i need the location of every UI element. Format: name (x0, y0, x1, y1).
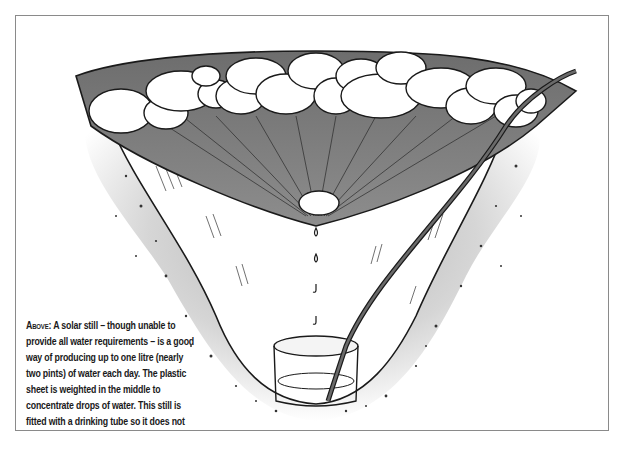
center-weight-stone (299, 191, 339, 215)
figure-caption: Above: A solar still – though unable to … (26, 318, 198, 431)
caption-text: A solar still – though unable to provide… (26, 320, 194, 431)
figure-frame: Above: A solar still – though unable to … (15, 15, 609, 431)
caption-lead: Above: (26, 320, 51, 331)
